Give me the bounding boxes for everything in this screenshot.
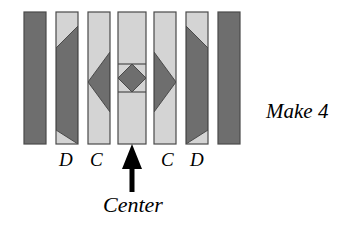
strip-label-D-right: D bbox=[190, 150, 204, 169]
strip-C-left bbox=[88, 12, 110, 144]
strip-label-C-left: C bbox=[90, 150, 103, 169]
center-pointer-arrow bbox=[122, 144, 142, 192]
strip-label-C-right: C bbox=[161, 150, 174, 169]
strip-solid-dark-left bbox=[24, 12, 46, 144]
strip-center bbox=[118, 12, 146, 144]
strip-D-right bbox=[186, 12, 208, 144]
strip-D-left bbox=[56, 12, 78, 144]
strip-C-right bbox=[154, 12, 176, 144]
strip-solid-dark-right bbox=[218, 12, 240, 144]
make-quantity-caption: Make 4 bbox=[266, 101, 328, 122]
quilt-assembly-diagram: D C C D Center Make 4 bbox=[0, 0, 364, 229]
center-caption: Center bbox=[103, 194, 163, 216]
strip-label-D-left: D bbox=[59, 150, 73, 169]
